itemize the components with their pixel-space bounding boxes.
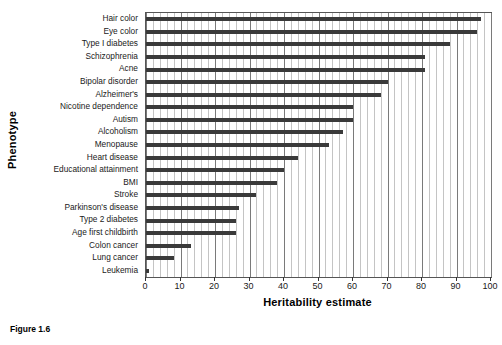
x-axis-tick-label: 50 [312, 281, 322, 291]
bar-row [146, 252, 491, 265]
x-axis-tick-label: 90 [450, 281, 460, 291]
bar [146, 244, 191, 248]
bar-row [146, 13, 491, 26]
bar [146, 30, 477, 34]
figure-container: Phenotype Hair colorEye colorType I diab… [0, 0, 502, 345]
bar [146, 168, 284, 172]
category-label: Leukemia [18, 264, 142, 277]
x-axis-tick-label: 40 [278, 281, 288, 291]
bar [146, 55, 425, 59]
category-label: Autism [18, 113, 142, 126]
bar-row [146, 51, 491, 64]
bar [146, 68, 425, 72]
x-axis-tick-label: 30 [243, 281, 253, 291]
y-axis-title-text: Phenotype [6, 111, 18, 169]
bar [146, 231, 236, 235]
bar [146, 143, 329, 147]
x-axis-tick-label: 70 [381, 281, 391, 291]
category-label: BMI [18, 176, 142, 189]
category-label: Heart disease [18, 150, 142, 163]
bar-row [146, 126, 491, 139]
bar [146, 105, 353, 109]
bar-row [146, 164, 491, 177]
bar-row [146, 76, 491, 89]
bar [146, 181, 277, 185]
plot-area [145, 12, 492, 278]
bar [146, 269, 149, 273]
bar-row [146, 265, 491, 278]
category-label: Type I diabetes [18, 37, 142, 50]
bar [146, 17, 481, 21]
bar-row [146, 139, 491, 152]
category-label: Alcoholism [18, 125, 142, 138]
category-label: Nicotine dependence [18, 100, 142, 113]
x-axis-title: Heritability estimate [145, 296, 490, 308]
bar [146, 93, 381, 97]
category-label: Alzheimer's [18, 87, 142, 100]
x-axis-tick-label: 10 [174, 281, 184, 291]
bar-row [146, 227, 491, 240]
bar [146, 219, 236, 223]
category-label: Schizophrenia [18, 50, 142, 63]
category-label: Type 2 diabetes [18, 213, 142, 226]
bar [146, 118, 353, 122]
category-label: Age first childbirth [18, 226, 142, 239]
bar [146, 42, 450, 46]
category-label: Colon cancer [18, 238, 142, 251]
bar-row [146, 239, 491, 252]
figure-caption: Figure 1.6 [10, 324, 50, 334]
category-label: Menopause [18, 138, 142, 151]
bar [146, 256, 174, 260]
x-axis-tick-label: 80 [416, 281, 426, 291]
category-label: Stroke [18, 188, 142, 201]
category-label: Parkinson's disease [18, 201, 142, 214]
category-label: Educational attainment [18, 163, 142, 176]
category-label: Lung cancer [18, 251, 142, 264]
bar-row [146, 189, 491, 202]
bar [146, 193, 256, 197]
category-label: Eye color [18, 25, 142, 38]
category-label: Bipolar disorder [18, 75, 142, 88]
x-axis-tick-label: 0 [142, 281, 147, 291]
category-label: Hair color [18, 12, 142, 25]
gridline-major [491, 13, 492, 277]
category-label: Acne [18, 62, 142, 75]
bar-row [146, 63, 491, 76]
bar [146, 80, 388, 84]
bar-row [146, 114, 491, 127]
bar-row [146, 88, 491, 101]
x-axis-tick-labels: 0102030405060708090100 [145, 281, 490, 295]
x-axis-tick-label: 20 [209, 281, 219, 291]
bar-row [146, 214, 491, 227]
bar-row [146, 202, 491, 215]
x-axis-tick-label: 100 [482, 281, 497, 291]
bar-series [146, 13, 491, 277]
bar-row [146, 101, 491, 114]
bar-row [146, 26, 491, 39]
bar [146, 206, 239, 210]
x-axis-tick-label: 60 [347, 281, 357, 291]
category-label-list: Hair colorEye colorType I diabetesSchizo… [18, 12, 142, 276]
bar-row [146, 38, 491, 51]
bar-row [146, 151, 491, 164]
bar [146, 130, 343, 134]
bar [146, 156, 298, 160]
bar-row [146, 177, 491, 190]
